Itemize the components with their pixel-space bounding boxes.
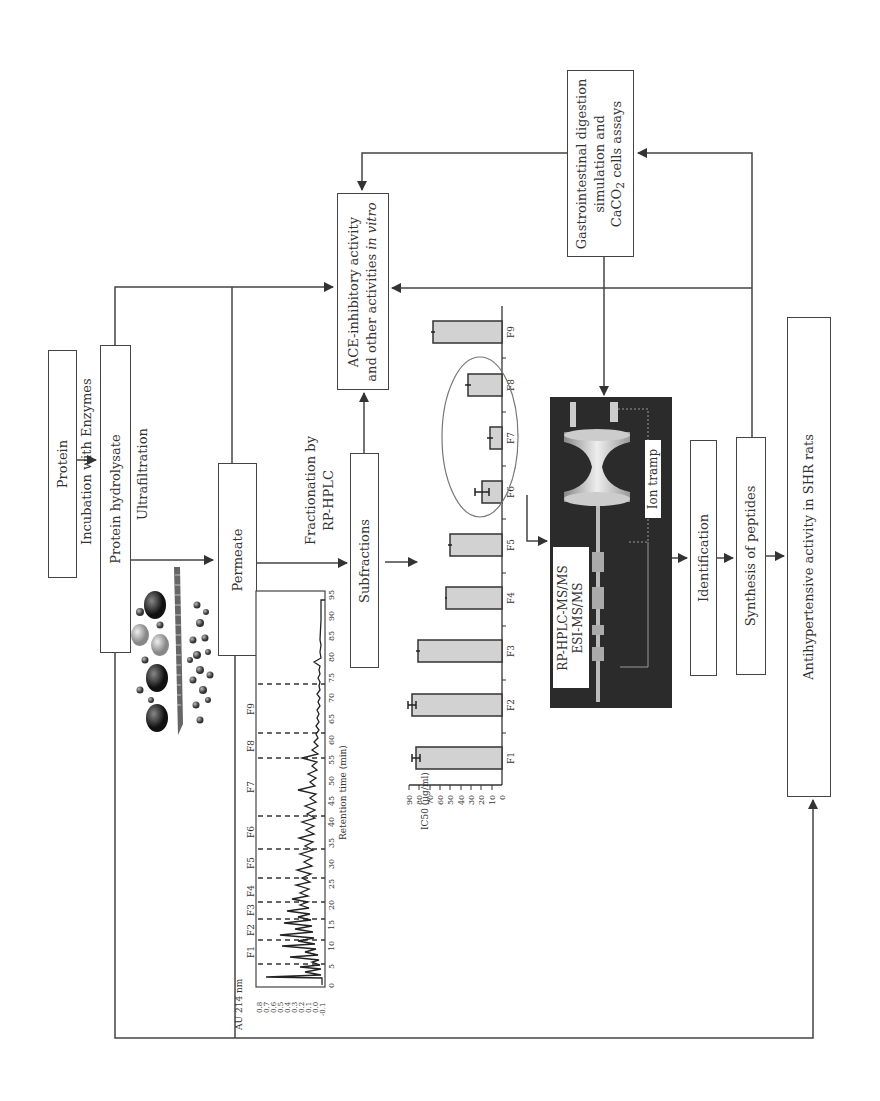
svg-text:0: 0 [498, 795, 507, 800]
svg-text:F4: F4 [506, 592, 516, 604]
ms-method-line-1: RP-HPLC-MS/MS [556, 565, 571, 670]
ic50-bars [412, 321, 502, 769]
ic50-bar-chart: F1 F2 F3 F4 F5 F6 F7 F8 F9 90 80 70 60 5… [0, 0, 880, 1101]
svg-text:40: 40 [457, 795, 466, 805]
ion-trap-image: Ion tramp RP-HPLC-MS/MS ESI-MS/MS [550, 397, 672, 708]
svg-text:F2: F2 [506, 699, 516, 711]
svg-text:60: 60 [436, 795, 445, 805]
svg-text:F1: F1 [506, 752, 516, 764]
svg-text:20: 20 [477, 795, 486, 805]
svg-text:IC50 (μg/ml): IC50 (μg/ml) [420, 772, 430, 830]
svg-text:10: 10 [488, 795, 497, 805]
svg-text:50: 50 [446, 795, 455, 805]
ion-trap-label-box: Ion tramp [645, 440, 661, 518]
svg-text:F5: F5 [506, 539, 516, 551]
svg-text:90: 90 [405, 795, 414, 805]
svg-text:F3: F3 [506, 645, 516, 657]
ms-method-label-box: RP-HPLC-MS/MS ESI-MS/MS [553, 547, 589, 688]
ms-method-label: RP-HPLC-MS/MS ESI-MS/MS [556, 565, 586, 670]
ion-trap-label: Ion tramp [645, 449, 661, 509]
ms-method-line-2: ESI-MS/MS [571, 565, 586, 670]
svg-text:F7: F7 [506, 432, 516, 444]
svg-text:30: 30 [467, 795, 476, 805]
svg-text:F9: F9 [506, 326, 516, 338]
